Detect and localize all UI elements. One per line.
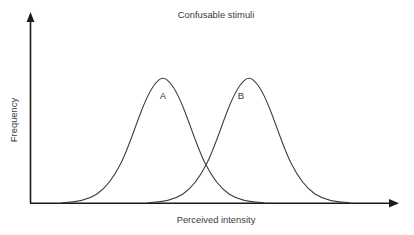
chart-figure: Frequency A B Confusable stimuli Perceiv… bbox=[0, 0, 414, 235]
y-axis-label: Frequency bbox=[8, 98, 19, 143]
chart-title: Confusable stimuli bbox=[178, 9, 255, 20]
x-axis-arrow-icon bbox=[389, 199, 399, 207]
x-axis-label: Perceived intensity bbox=[177, 214, 256, 225]
curve-a-label: A bbox=[160, 90, 167, 101]
y-axis-arrow-icon bbox=[27, 12, 35, 22]
curve-b-label: B bbox=[238, 90, 244, 101]
distribution-chart: Frequency A B Confusable stimuli Perceiv… bbox=[0, 0, 414, 235]
